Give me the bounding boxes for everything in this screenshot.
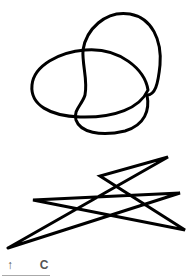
looped-curve-stroke (75, 13, 160, 133)
arrow-up-icon: ↑ (7, 258, 13, 272)
clear-label: C (40, 258, 49, 272)
clear-button[interactable]: C (36, 257, 52, 273)
drawing-canvas[interactable] (0, 0, 195, 250)
ellipse-stroke (32, 50, 148, 117)
undo-button[interactable]: ↑ (2, 257, 18, 273)
zigzag-stroke (8, 157, 185, 248)
toolbar-divider (2, 275, 50, 276)
toolbar: ↑ C (0, 255, 60, 277)
